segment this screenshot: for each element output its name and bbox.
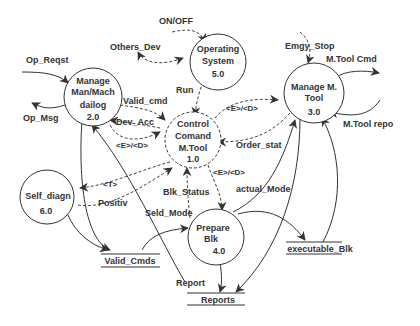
svg-text:1.0: 1.0 <box>187 154 200 164</box>
svg-text:Man/Mach: Man/Mach <box>71 87 115 97</box>
svg-text:Valid_Cmds: Valid_Cmds <box>104 256 155 266</box>
svg-text:Self_diagn: Self_diagn <box>25 191 71 201</box>
flow-valid-cmds-to-4 <box>142 228 188 250</box>
svg-text:System: System <box>202 56 234 66</box>
svg-text:Comand: Comand <box>175 131 211 141</box>
flow-others-dev <box>138 52 183 63</box>
store-executable-blk[interactable]: executable_Blk <box>286 242 354 254</box>
data-flow-diagram: Operating System 5.0 Manage Man/Mach dai… <box>0 0 420 326</box>
svg-text:6.0: 6.0 <box>40 206 53 216</box>
flow-order-stat <box>218 113 290 142</box>
label-emgy-stop: Emgy_Stop <box>285 41 335 51</box>
svg-text:Control: Control <box>177 119 209 129</box>
svg-text:Manage M.: Manage M. <box>291 82 337 92</box>
flow-executable-to-3 <box>322 118 338 242</box>
flow-4-to-reports <box>220 262 222 292</box>
process-manage-man-mach-dialog[interactable]: Manage Man/Mach dailog 2.0 <box>64 68 122 126</box>
svg-text:M.Tool: M.Tool <box>179 143 207 153</box>
flow-t <box>80 162 170 188</box>
svg-text:5.0: 5.0 <box>212 69 225 79</box>
process-self-diagn[interactable]: Self_diagn 6.0 <box>20 170 74 224</box>
label-ed-1-3: <E>/<D> <box>226 104 258 113</box>
label-positiv: Positiv <box>98 198 128 208</box>
flow-op-msg <box>32 103 65 108</box>
process-control-comand-mtool[interactable]: Control Comand M.Tool 1.0 <box>165 112 221 168</box>
flow-run <box>195 82 203 115</box>
svg-text:Reports: Reports <box>201 295 235 305</box>
label-dev-acc: Dev_Acc <box>116 117 154 127</box>
process-operating-system[interactable]: Operating System 5.0 <box>190 34 246 90</box>
flow-actual-mode <box>233 120 295 212</box>
svg-text:3.0: 3.0 <box>308 107 321 117</box>
label-ed-2-1: <E>/<D> <box>116 141 148 150</box>
flow-op-reqst <box>22 72 68 83</box>
svg-text:Prepare: Prepare <box>196 223 230 233</box>
label-valid-cmd: Valid_cmd <box>123 96 168 106</box>
label-mtool-cmd: M.Tool Cmd <box>326 54 377 64</box>
process-manage-mtool[interactable]: Manage M. Tool 3.0 <box>284 63 344 123</box>
svg-text:2.0: 2.0 <box>87 112 100 122</box>
label-others-dev: Others_Dev <box>110 42 161 52</box>
label-op-reqst: Op_Reqst <box>26 55 69 65</box>
label-report: Report <box>176 278 205 288</box>
svg-text:4.0: 4.0 <box>213 246 226 256</box>
svg-text:Blk: Blk <box>204 234 219 244</box>
label-actual-mode: actual_Mode <box>236 184 291 194</box>
svg-text:Operating: Operating <box>197 44 240 54</box>
label-seld-mode: Seld_Mode <box>145 208 193 218</box>
store-reports[interactable]: Reports <box>187 293 245 305</box>
flow-ed-2-1 <box>110 125 160 139</box>
process-prepare-blk[interactable]: Prepare Blk 4.0 <box>188 209 244 265</box>
label-run: Run <box>176 85 194 95</box>
label-blk-status: Blk_Status <box>163 187 210 197</box>
flow-mtool-cmd <box>335 71 379 78</box>
label-order-stat: Order_stat <box>236 140 282 150</box>
label-t: <T> <box>103 180 118 189</box>
svg-text:executable_Blk: executable_Blk <box>287 244 354 254</box>
svg-text:Manage: Manage <box>76 76 110 86</box>
label-op-msg: Op_Msg <box>23 113 59 123</box>
svg-text:Tool: Tool <box>305 93 323 103</box>
svg-text:dailog: dailog <box>80 100 107 110</box>
label-ed-1-4: <E>/<D> <box>213 168 245 177</box>
label-on-off: ON/OFF <box>159 16 193 26</box>
label-mtool-rep: M.Tool repo <box>343 119 394 129</box>
store-valid-cmds[interactable]: Valid_Cmds <box>101 254 160 267</box>
flow-4-to-executable <box>238 211 305 240</box>
